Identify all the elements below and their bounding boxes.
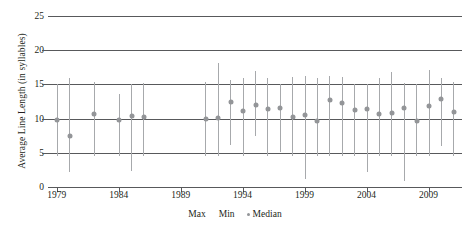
chart-legend: MaxMinMedian — [0, 208, 469, 219]
x-axis-labels: 1979198419891994199920042009 — [48, 190, 462, 204]
range-bar — [453, 82, 454, 155]
range-bar — [69, 78, 70, 172]
median-marker — [377, 112, 382, 117]
median-marker — [315, 119, 320, 124]
range-bar — [131, 84, 132, 172]
gridline-y-25 — [48, 16, 462, 17]
x-tick-label-1984: 1984 — [109, 190, 128, 200]
range-bar — [429, 70, 430, 156]
y-tick-5 — [42, 153, 48, 154]
median-marker — [117, 117, 122, 122]
median-marker — [216, 115, 221, 120]
median-marker — [92, 111, 97, 116]
legend-label-max: Max — [188, 209, 205, 219]
y-tick-15 — [42, 84, 48, 85]
range-bar — [230, 80, 231, 146]
median-marker — [451, 110, 456, 115]
plot-area — [48, 16, 462, 187]
median-marker — [241, 109, 246, 114]
legend-label-min: Min — [219, 209, 235, 219]
x-tick-label-1994: 1994 — [233, 190, 252, 200]
range-bar — [94, 82, 95, 155]
median-marker — [402, 105, 407, 110]
chart-figure: Average Line Length (in syllables) 05101… — [0, 0, 469, 235]
range-bar — [305, 76, 306, 179]
median-marker — [340, 100, 345, 105]
median-marker — [228, 100, 233, 105]
median-marker — [253, 102, 258, 107]
median-marker — [439, 96, 444, 101]
legend-item-max: Max — [187, 209, 205, 219]
range-bar — [119, 94, 120, 156]
range-bar — [342, 77, 343, 156]
y-tick-label-0: 0 — [39, 183, 44, 192]
median-dot-icon — [247, 213, 250, 216]
legend-item-median: Median — [247, 209, 282, 219]
median-marker — [141, 115, 146, 120]
median-marker — [365, 107, 370, 112]
median-marker — [278, 105, 283, 110]
median-marker — [290, 114, 295, 119]
range-bar — [317, 78, 318, 155]
median-marker — [67, 134, 72, 139]
median-marker — [414, 118, 419, 123]
gridline-y-0 — [48, 187, 462, 188]
x-tick-label-2004: 2004 — [357, 190, 376, 200]
median-marker — [352, 108, 357, 113]
x-tick-label-1989: 1989 — [171, 190, 190, 200]
median-marker — [203, 116, 208, 121]
median-marker — [427, 104, 432, 109]
median-marker — [55, 117, 60, 122]
range-bar — [367, 84, 368, 172]
x-tick-label-1979: 1979 — [47, 190, 66, 200]
median-marker — [327, 98, 332, 103]
median-marker — [389, 111, 394, 116]
y-tick-10 — [42, 119, 48, 120]
range-bar — [404, 83, 405, 181]
range-bar — [280, 84, 281, 152]
legend-label-median: Median — [253, 209, 282, 219]
x-tick-label-2009: 2009 — [419, 190, 438, 200]
median-marker — [303, 113, 308, 118]
y-axis-labels: 0510152025 — [0, 0, 48, 187]
legend-item-min: Min — [218, 209, 235, 219]
gridline-y-5 — [48, 153, 462, 154]
range-bar — [218, 63, 219, 156]
y-tick-20 — [42, 50, 48, 51]
range-bar — [243, 78, 244, 155]
range-bar — [329, 76, 330, 155]
median-marker — [129, 113, 134, 118]
range-bar — [354, 84, 355, 156]
y-tick-label-25: 25 — [35, 12, 45, 21]
range-bar — [441, 78, 442, 146]
x-tick-label-1999: 1999 — [295, 190, 314, 200]
range-bar — [267, 78, 268, 155]
median-marker — [265, 107, 270, 112]
gridline-y-20 — [48, 50, 462, 51]
